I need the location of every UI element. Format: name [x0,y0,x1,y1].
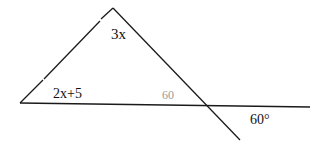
left-side [101,8,113,19]
triangle-diagram [0,0,321,149]
base-line [20,103,310,107]
interior-angle-label: 60 [162,89,174,101]
transversal-line [113,8,240,140]
apex-angle-label: 3x [111,27,126,42]
left-side [44,21,100,79]
exterior-angle-label: 60° [250,113,270,127]
left-angle-label: 2x+5 [53,87,82,101]
left-side [20,80,43,103]
